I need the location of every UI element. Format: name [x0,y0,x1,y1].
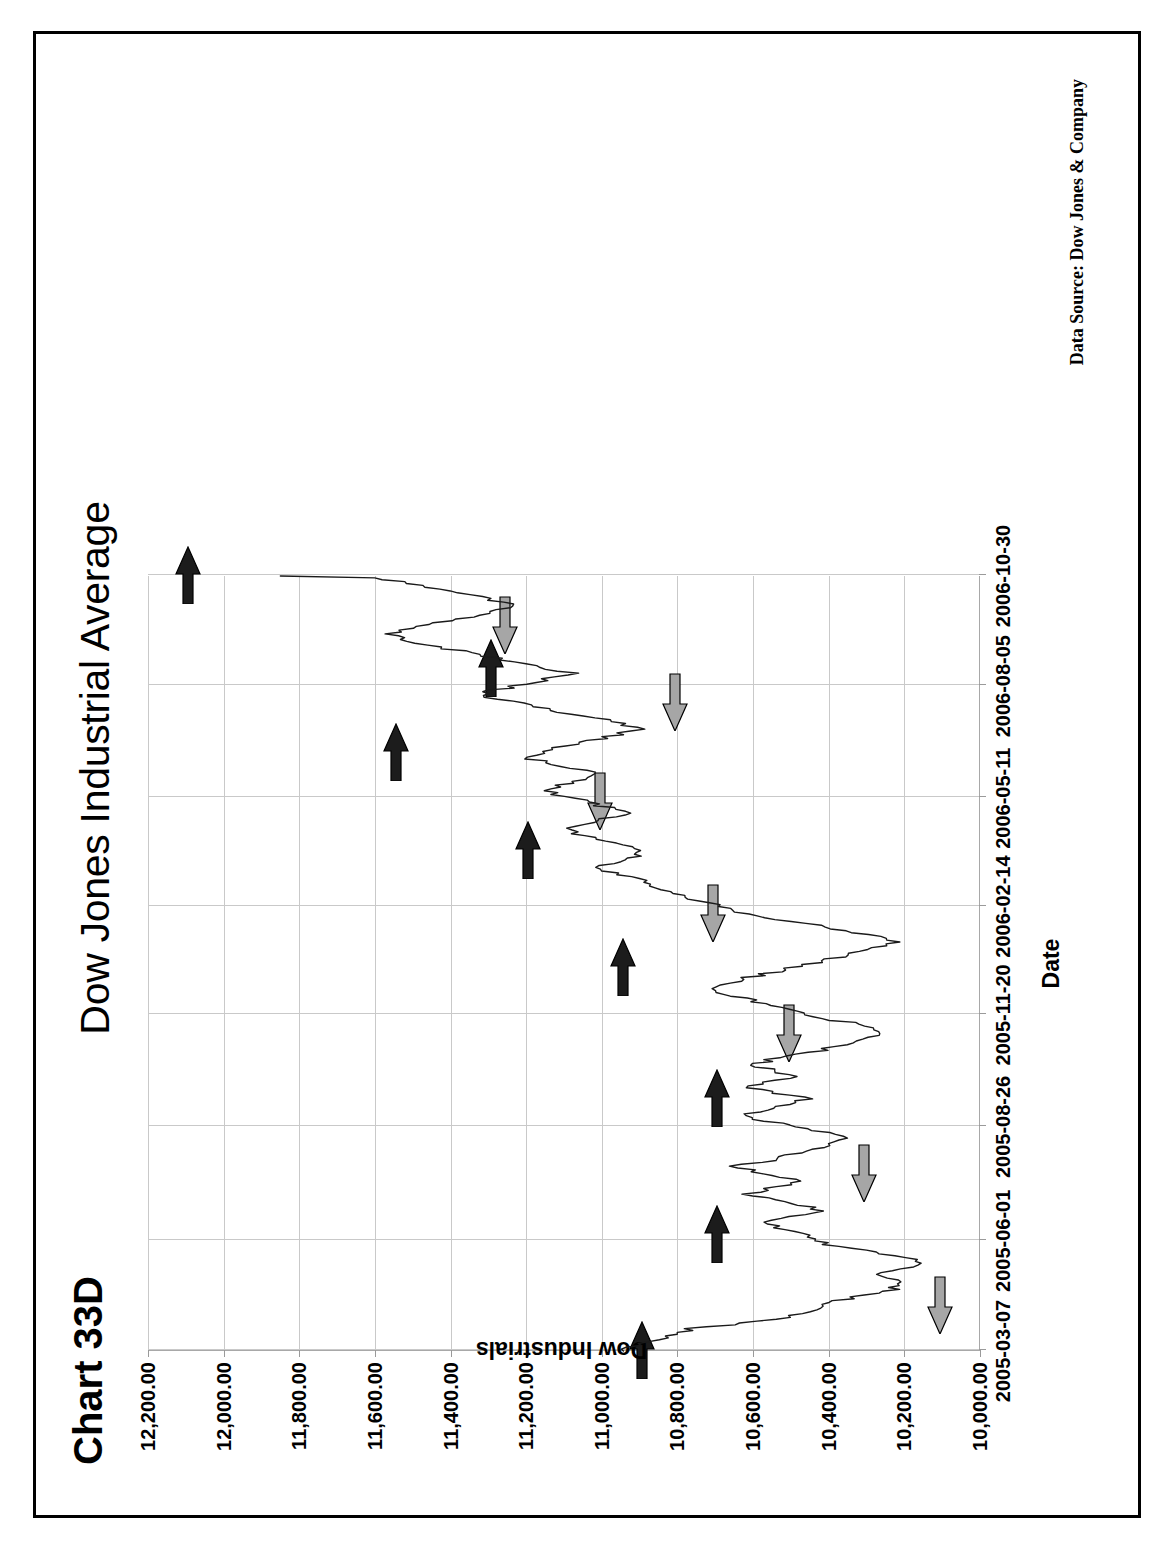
chart-title: Dow Jones Industrial Average [72,53,119,1483]
x-axis-tick-label: 2005-11-20 [992,964,1015,1065]
y-axis-tick [904,1350,905,1357]
x-axis-tick-label: 2006-02-14 [992,855,1015,957]
x-axis-tick-label: 2006-10-30 [992,525,1015,627]
chart-page: Chart 33D Dow Jones Industrial Average D… [0,0,1175,1548]
y-axis-tick-label: 11,400.00 [439,1362,462,1450]
y-axis-tick-label: 12,000.00 [212,1362,235,1451]
gridline-vertical [148,574,979,575]
chart-canvas: Chart 33D Dow Jones Industrial Average D… [52,53,1112,1483]
x-axis-tick-label: 2005-08-26 [992,1076,1015,1178]
y-axis-tick [223,1350,224,1357]
y-axis-tick [828,1350,829,1357]
y-axis-tick [148,1350,149,1357]
y-axis-tick-label: 11,000.00 [590,1362,613,1450]
x-axis-title: Date [1038,576,1065,1351]
y-axis-tick [374,1350,375,1357]
x-axis-tick-label: 2006-08-05 [992,635,1015,737]
y-axis-tick-label: 10,000.00 [968,1362,991,1451]
y-axis-tick [753,1350,754,1357]
y-axis-tick-label: 10,200.00 [892,1362,915,1451]
y-axis-tick-label: 12,200.00 [136,1362,159,1451]
y-axis-tick-label: 10,800.00 [665,1362,688,1451]
y-axis-tick [299,1350,300,1357]
plot-region: Dow Industrials 12,200.0012,000.0011,800… [148,576,980,1351]
rotated-chart-wrapper: Chart 33D Dow Jones Industrial Average D… [0,0,1175,1548]
x-axis-tick-label: 2006-05-11 [992,748,1015,849]
x-axis-tick-label: 2005-06-01 [992,1190,1015,1292]
y-axis-tick-label: 10,600.00 [741,1362,764,1451]
data-source-note: Data Source: Dow Jones & Company [1067,79,1088,365]
y-axis-tick-label: 10,400.00 [817,1362,840,1451]
y-axis-tick-label: 11,600.00 [363,1362,386,1450]
x-axis-tick [979,574,986,575]
y-axis-tick [980,1350,981,1357]
y-axis-tick-label: 11,200.00 [514,1362,537,1450]
y-axis-tick-label: 11,800.00 [287,1362,310,1450]
series-line-dow-industrials [148,576,980,1351]
x-axis-tick-label: 2005-03-07 [992,1300,1015,1402]
